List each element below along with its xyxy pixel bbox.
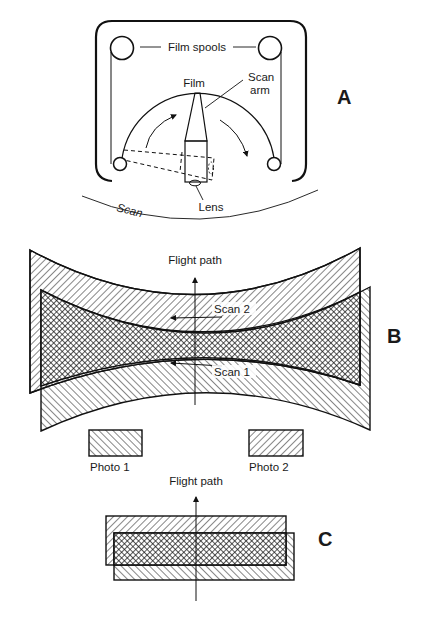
lens: [190, 180, 201, 186]
lens-label: Lens: [199, 201, 224, 213]
photo1-swatch: [89, 430, 142, 456]
panel-c-label: C: [318, 528, 332, 550]
frame-overlap: [114, 533, 286, 565]
film-label: Film: [183, 77, 205, 89]
photo2-label: Photo 2: [249, 461, 289, 473]
film-spools-label: Film spools: [168, 41, 226, 53]
scan-arm-label-1: Scan: [248, 71, 274, 83]
scanning-camera-diagram: Film spools Film Scan arm Lens Scan A: [0, 0, 423, 621]
roller-right: [268, 158, 281, 171]
rotation-arrow-right: [220, 120, 247, 156]
lens-housing: [185, 141, 207, 182]
panel-b-label: B: [387, 325, 401, 347]
flight-path-label-c: Flight path: [169, 475, 223, 487]
panel-b-scan-coverage: Flight path Scan 2 Scan 1 B Photo 1 Phot…: [30, 248, 401, 473]
scan1-label: Scan 1: [214, 366, 250, 378]
photo1-label: Photo 1: [90, 461, 130, 473]
panel-a-camera: Film spools Film Scan arm Lens Scan A: [82, 21, 351, 219]
panel-a-label: A: [337, 86, 351, 108]
roller-left: [114, 158, 127, 171]
rotation-arrow-left: [146, 115, 176, 148]
panel-c-frame-coverage: Flight path C: [106, 475, 332, 601]
swung-arm-dashed: [124, 150, 214, 180]
film-spool-right: [259, 37, 282, 60]
scan-arm-label-2: arm: [250, 84, 270, 96]
scan2-label: Scan 2: [214, 303, 250, 315]
film-spool-left: [111, 37, 134, 60]
photo2-swatch: [249, 430, 303, 456]
scan-label: Scan: [116, 201, 144, 219]
scan-arm: [185, 93, 207, 141]
film-arc: [122, 93, 274, 158]
flight-path-label-b: Flight path: [168, 254, 222, 266]
